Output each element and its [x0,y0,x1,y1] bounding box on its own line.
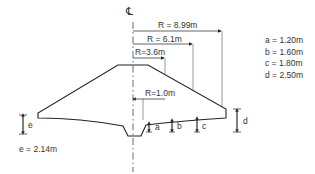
mark-e: e [28,121,33,130]
legend-a: a = 1.20m [265,35,303,47]
height-marks [19,109,241,134]
dimension-legend: a = 1.20m b = 1.60m c = 1.80m d = 2.50m [265,35,303,81]
radius-label-3-6: R=3.6m [135,48,165,57]
legend-c: c = 1.80m [265,58,303,70]
radius-dimensions [133,31,222,120]
mark-a: a [155,123,160,132]
section-outline [38,65,226,136]
mark-c: c [202,122,206,131]
radius-label-1-0: R=1.0m [145,89,175,98]
legend-d: d = 2.50m [265,70,303,82]
radius-label-6-1: R = 6.1m [147,35,182,44]
radius-label-8-99: R = 8.99m [158,21,197,30]
legend-b: b = 1.60m [265,47,303,59]
mark-b: b [177,122,182,131]
mark-d: d [243,117,248,126]
centerline-symbol: ℄ [126,6,133,17]
e-value: e = 2.14m [19,145,57,154]
